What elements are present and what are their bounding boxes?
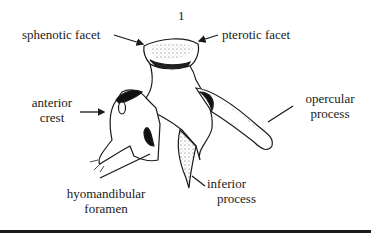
label-opercular-process: opercular process — [295, 91, 365, 121]
label-hyomandibular-foramen: hyomandibular foramen — [58, 186, 154, 216]
anterior-crest — [90, 90, 160, 172]
label-anterior-crest-line2: crest — [26, 110, 78, 125]
figure-number: 1 — [178, 8, 185, 23]
pterotic-facet-arrow — [199, 35, 218, 41]
label-anterior-crest: anterior crest — [26, 95, 78, 125]
label-inferior-process-line2: process — [207, 191, 256, 206]
label-hyomandibular-foramen-line1: hyomandibular — [58, 186, 154, 201]
opercular-process-line — [268, 106, 293, 122]
label-inferior-process-line1: inferior — [207, 176, 256, 191]
label-opercular-process-line1: opercular — [295, 91, 365, 106]
label-pterotic-facet: pterotic facet — [222, 27, 290, 42]
inferior-process-line — [192, 176, 205, 186]
label-inferior-process: inferior process — [207, 176, 256, 206]
sphenotic-facet-arrow — [114, 35, 143, 44]
label-anterior-crest-line1: anterior — [26, 95, 78, 110]
label-opercular-process-line2: process — [295, 106, 365, 121]
bottom-rule — [0, 230, 371, 233]
label-sphenotic-facet: sphenotic facet — [22, 27, 100, 42]
label-hyomandibular-foramen-line2: foramen — [58, 201, 154, 216]
